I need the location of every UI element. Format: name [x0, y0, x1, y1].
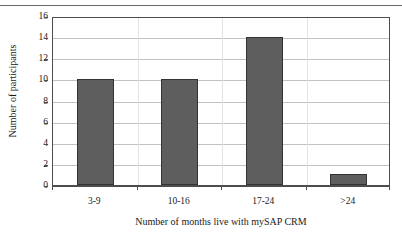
- y-tick-label: 0: [4, 181, 48, 191]
- y-tick-label: 6: [4, 118, 48, 128]
- y-tick-mark: [44, 80, 48, 81]
- bars: [53, 18, 389, 185]
- x-axis-title: Number of months live with mySAP CRM: [52, 216, 390, 227]
- y-tick-label: 2: [4, 160, 48, 170]
- y-tick-mark: [44, 102, 48, 103]
- x-tick-label: 17-24: [221, 196, 306, 207]
- x-tick-mark: [52, 186, 53, 190]
- y-tick-label: 10: [4, 75, 48, 85]
- y-tick-label: 16: [4, 12, 48, 22]
- page-top-cutoff-text: [60, 0, 350, 3]
- bar: [161, 79, 198, 185]
- y-tick-mark: [44, 123, 48, 124]
- y-tick-mark: [44, 165, 48, 166]
- x-axis-ticks: [52, 186, 390, 191]
- x-tick-mark: [389, 186, 390, 190]
- x-tick-mark: [137, 186, 138, 190]
- x-axis-labels: 3-910-1617-24>24: [52, 196, 390, 210]
- x-tick-label: 10-16: [137, 196, 222, 207]
- bar: [246, 37, 283, 185]
- bar: [77, 79, 114, 185]
- y-tick-mark: [44, 17, 48, 18]
- plot-area: [52, 17, 390, 186]
- y-tick-mark: [44, 38, 48, 39]
- y-tick-mark: [44, 186, 48, 187]
- y-tick-mark: [44, 59, 48, 60]
- y-tick-label: 8: [4, 97, 48, 107]
- y-axis-ticks: 0246810121416: [0, 17, 48, 186]
- bar-chart-figure: Number of participants 0246810121416 3-9…: [0, 6, 402, 233]
- x-tick-mark: [221, 186, 222, 190]
- y-tick-mark: [44, 144, 48, 145]
- y-tick-label: 12: [4, 54, 48, 64]
- bar: [330, 174, 367, 185]
- x-tick-label: >24: [306, 196, 391, 207]
- x-tick-label: 3-9: [52, 196, 137, 207]
- x-tick-mark: [306, 186, 307, 190]
- y-tick-label: 4: [4, 139, 48, 149]
- y-tick-label: 14: [4, 33, 48, 43]
